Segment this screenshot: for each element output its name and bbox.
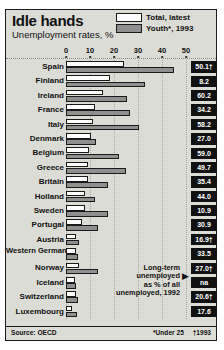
bar-youth (66, 312, 77, 318)
longterm-value-badge: 60.2 (191, 90, 217, 101)
bar-youth (66, 297, 78, 303)
country-label: Austria (6, 233, 64, 247)
country-label: Holland (6, 190, 64, 204)
axis-tick-mark (65, 56, 67, 58)
country-label: Sweden (6, 204, 64, 218)
bar-youth (66, 211, 108, 217)
axis-tick-label: 10 (86, 46, 94, 55)
bar-youth (66, 67, 174, 73)
country-label: France (6, 103, 64, 117)
legend-swatch-youth-icon (116, 24, 142, 33)
page-title: Idle hands (12, 12, 83, 29)
country-label: Ireland (6, 89, 64, 103)
bar-group (66, 190, 186, 204)
bar-group (66, 233, 186, 247)
chart-row: Greece49.7 (6, 161, 216, 175)
bar-youth (66, 182, 108, 188)
country-label: Iceland (6, 276, 64, 290)
bar-group (66, 89, 186, 103)
bar-total (66, 162, 88, 168)
longterm-value-badge: 30.9 (191, 219, 217, 230)
footnote-1993: †1993 (193, 329, 211, 336)
chart-row: Holland44.0 (6, 190, 216, 204)
longterm-value-badge: na (191, 277, 217, 288)
axis-tick-mark (185, 56, 187, 58)
chart-row: Portugal30.9 (6, 218, 216, 232)
chart-row: Denmark27.0 (6, 132, 216, 146)
longterm-value-badge: 17.6 (191, 306, 217, 317)
bar-youth (66, 197, 95, 203)
bar-youth (66, 168, 126, 174)
bar-group (66, 103, 186, 117)
bar-total (66, 248, 76, 254)
bar-total (66, 147, 89, 153)
axis-tick-mark (161, 56, 163, 58)
chart-header: Idle hands Unemployment rates, % Total, … (6, 10, 216, 46)
bar-group (66, 132, 186, 146)
longterm-value-badge: 33.5 (191, 248, 217, 259)
bar-youth (66, 82, 145, 88)
bar-group (66, 175, 186, 189)
annotation-text: Long-termunemployedas % of allunemployed… (68, 264, 180, 298)
country-label: Britain (6, 175, 64, 189)
axis-tick-label: 50 (182, 46, 190, 55)
bar-total (66, 191, 85, 197)
country-label: Spain (6, 60, 64, 74)
bar-total (66, 61, 124, 67)
chart-row: Finland8.2 (6, 74, 216, 88)
chart-row: Belgium59.0 (6, 146, 216, 160)
chart-row: Ireland60.2 (6, 89, 216, 103)
bar-total (66, 306, 72, 312)
longterm-value-badge: 8.2 (191, 76, 217, 87)
bar-group (66, 247, 186, 261)
bar-youth (66, 96, 127, 102)
chart-legend: Total, latest Youth*, 1993 (116, 13, 212, 35)
chart-row: Luxembourg17.6 (6, 305, 216, 319)
bar-group (66, 218, 186, 232)
annotation-line: unemployed, 1992 (68, 289, 180, 297)
chart-row: Western Germany33.5 (6, 247, 216, 261)
bar-group (66, 60, 186, 74)
bar-group (66, 161, 186, 175)
bar-youth (66, 139, 96, 145)
longterm-value-badge: 16.9† (191, 234, 217, 245)
axis-baseline (6, 58, 216, 59)
longterm-value-badge: 49.7 (191, 162, 217, 173)
legend-swatch-total-icon (116, 13, 142, 22)
bar-group (66, 118, 186, 132)
longterm-value-badge: 20.6† (191, 291, 217, 302)
longterm-value-badge: 58.2 (191, 119, 217, 130)
bar-total (66, 133, 91, 139)
longterm-value-badge: 50.1† (191, 61, 217, 72)
axis-tick-mark (113, 56, 115, 58)
bar-total (66, 90, 103, 96)
chart-row: Italy58.2 (6, 118, 216, 132)
bar-total (66, 104, 95, 110)
source-label: Source: OECD (11, 329, 56, 336)
bar-total (66, 119, 93, 125)
bar-youth (66, 110, 130, 116)
chart-row: France34.2 (6, 103, 216, 117)
bar-total (66, 75, 110, 81)
country-label: Switzerland (6, 290, 64, 304)
longterm-value-badge: 27.0 (191, 133, 217, 144)
bar-group (66, 305, 186, 319)
axis-tick-label: 0 (64, 46, 68, 55)
chart-row: Britain35.4 (6, 175, 216, 189)
country-label: Norway (6, 261, 64, 275)
axis-tick-label: 30 (134, 46, 142, 55)
chart-subtitle: Unemployment rates, % (12, 29, 113, 40)
axis-tick-mark (137, 56, 139, 58)
axis-tick-label: 40 (158, 46, 166, 55)
bar-group (66, 204, 186, 218)
footnotes: *Under 25 †1993 (146, 329, 211, 336)
country-label: Belgium (6, 146, 64, 160)
bar-group (66, 74, 186, 88)
chart-row: Sweden10.9 (6, 204, 216, 218)
country-label: Denmark (6, 132, 64, 146)
chart-row: Austria16.9† (6, 233, 216, 247)
country-label: Portugal (6, 218, 64, 232)
country-label: Luxembourg (6, 305, 64, 319)
legend-label-youth: Youth*, 1993 (146, 24, 193, 33)
bar-total (66, 176, 88, 182)
